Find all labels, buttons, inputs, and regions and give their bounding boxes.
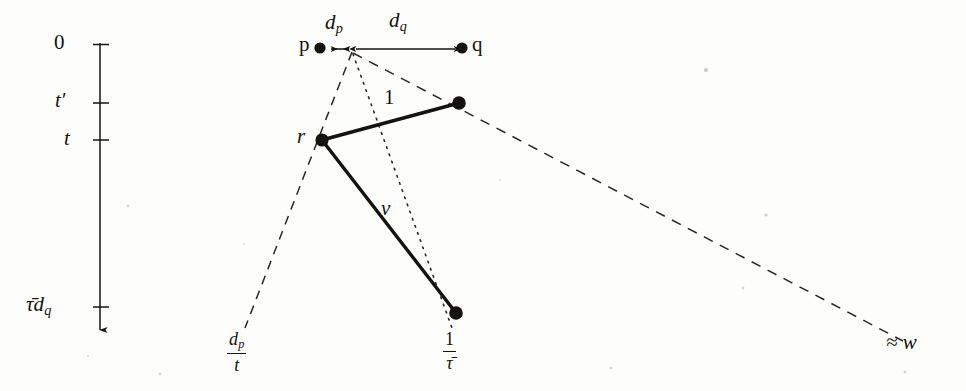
one-over-tau-bar-denominator: τ̄ <box>443 353 456 373</box>
point-q-label: q <box>472 34 483 55</box>
vertical-time-axis <box>93 43 109 330</box>
ray-dp-over-t <box>245 52 352 328</box>
scan-speckles <box>87 68 906 375</box>
dp-over-t-numerator-sub: p <box>238 337 244 351</box>
ray-approx-w-text: ≈ w <box>886 330 917 354</box>
diagram-canvas: 0 t′ t τ̄dq p q r dp dq 1 v dp t 1 τ̄ ≈ … <box>0 0 966 391</box>
axis-label-tau-dq-sub: q <box>44 302 51 318</box>
dp-over-t-fraction: dp t <box>227 330 246 375</box>
axis-label-0: 0 <box>54 32 65 53</box>
ray-one-over-tau-bar-label: 1 τ̄ <box>443 330 456 373</box>
segment-v-label: v <box>381 198 390 219</box>
point-p-dot <box>314 42 325 53</box>
point-q-dot <box>456 42 467 53</box>
point-lower-right-dot <box>449 306 463 320</box>
point-r-label: r <box>297 126 305 147</box>
ray-approx-w-label: ≈ w <box>886 332 917 353</box>
dp-measure-label-letter: d <box>325 10 336 34</box>
segment-one-label: 1 <box>384 87 395 108</box>
point-upper-right-dot <box>452 96 466 110</box>
segment-v <box>322 140 456 313</box>
axis-label-tau-dq-body: τ̄d <box>26 292 44 316</box>
dp-over-t-bar <box>227 353 246 354</box>
one-over-tau-bar-fraction: 1 τ̄ <box>443 330 456 373</box>
axis-label-t: t <box>64 128 70 149</box>
dq-measure-label-letter: d <box>389 8 400 32</box>
dp-over-t-denominator: t <box>227 355 246 375</box>
dp-over-t-numerator: dp <box>227 330 246 352</box>
ray-approx-w <box>353 53 903 341</box>
axis-label-tau-dq: τ̄dq <box>26 294 51 317</box>
one-over-tau-bar-numerator: 1 <box>443 330 456 350</box>
axis-label-prime-mark: ′ <box>61 88 66 112</box>
point-r-dot <box>315 133 328 146</box>
axis-label-t-prime: t′ <box>55 90 65 111</box>
dq-measure-label-sub: q <box>400 18 407 34</box>
ray-dp-over-t-label: dp t <box>227 330 246 375</box>
dq-measure-label: dq <box>389 10 407 33</box>
diagram-vector-layer <box>0 0 966 391</box>
point-p-label: p <box>299 34 310 55</box>
dp-measure-label-sub: p <box>336 20 343 36</box>
one-over-tau-bar-bar <box>443 351 456 352</box>
dp-over-t-numerator-letter: d <box>229 329 238 349</box>
dp-measure-label: dp <box>325 12 343 35</box>
